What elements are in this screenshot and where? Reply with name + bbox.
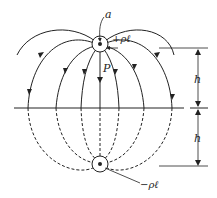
field-line-diagram: a +ρℓ P −ρℓ h h [0,0,217,198]
point-p-label: P [102,62,111,75]
negative-image-charge [92,156,108,172]
height-lower-label: h [194,132,201,145]
height-dimension [159,48,208,166]
positive-charge-label: +ρℓ [112,33,130,44]
negative-charge-label: −ρℓ [140,179,158,190]
height-upper-label: h [194,73,201,86]
radius-label: a [105,8,112,21]
